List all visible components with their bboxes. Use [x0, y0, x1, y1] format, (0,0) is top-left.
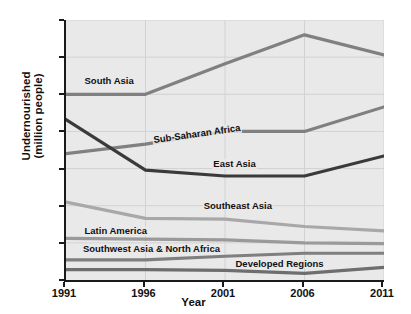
- series-line: [66, 267, 384, 273]
- series-label: Southwest Asia & North Africa: [82, 244, 221, 254]
- chart-container: Undernourished (million people) 05010015…: [0, 0, 411, 314]
- series-line: [66, 253, 384, 260]
- series-label: Developed Regions: [235, 259, 325, 269]
- y-axis-tick-labels: 050100150200250300350: [0, 0, 58, 314]
- series-label: Latin America: [84, 226, 148, 236]
- series-label: Southeast Asia: [203, 201, 273, 211]
- x-axis-title-text: Year: [181, 296, 205, 308]
- series-label: South Asia: [84, 76, 135, 86]
- x-axis-title: Year: [0, 296, 411, 308]
- series-label: East Asia: [212, 159, 256, 169]
- plot-area: South AsiaSub-Saharan AfricaEast AsiaSou…: [64, 20, 384, 282]
- series-lines: [66, 20, 384, 280]
